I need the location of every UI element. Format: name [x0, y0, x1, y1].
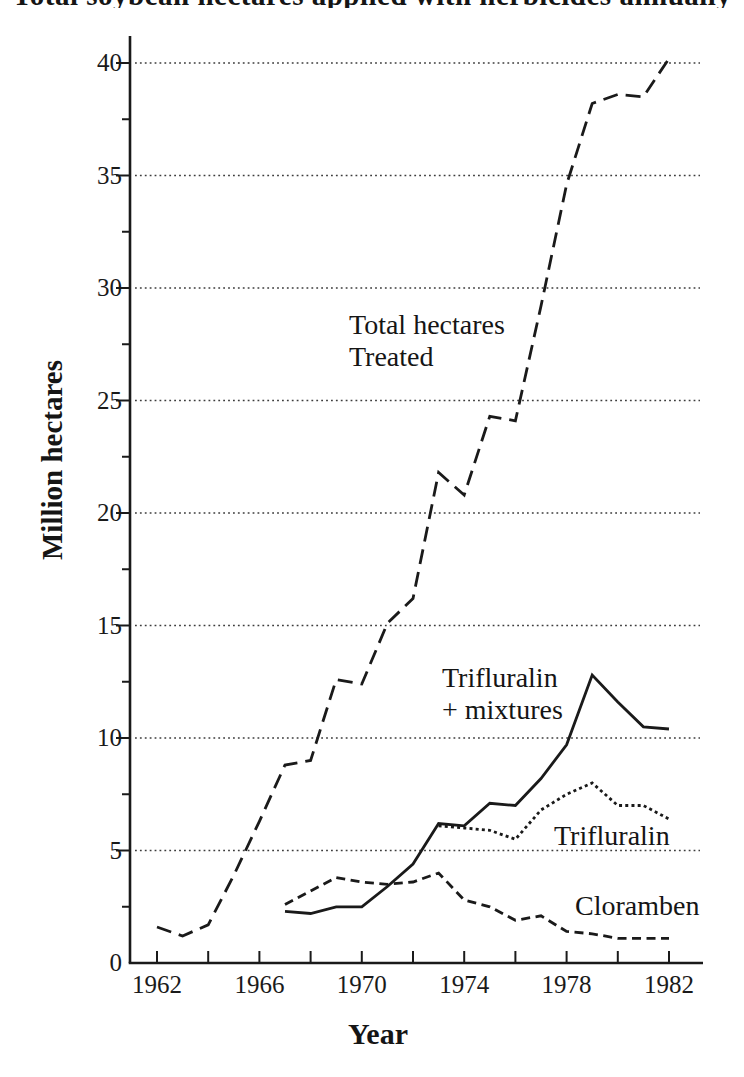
y-tick-label: 15 — [97, 612, 122, 639]
x-tick-label: 1982 — [644, 971, 694, 998]
x-tick-label: 1978 — [542, 971, 592, 998]
y-tick-label: 35 — [97, 162, 122, 189]
x-axis-title: Year — [348, 1017, 408, 1051]
figure-chart-area: Total soybean hectares applied with herb… — [0, 0, 744, 1077]
annotation-cloramben: Cloramben — [575, 890, 699, 922]
y-tick-label: 5 — [110, 837, 123, 864]
annotation-total-hectares-treated: Total hectares Treated — [349, 309, 505, 373]
x-tick-label: 1974 — [439, 971, 490, 998]
annotation-trifluralin: Trifluralin — [554, 820, 670, 852]
y-tick-label: 30 — [97, 274, 122, 301]
y-tick-label: 0 — [110, 949, 123, 976]
y-tick-label: 40 — [97, 49, 122, 76]
x-tick-label: 1962 — [132, 971, 182, 998]
x-tick-label: 1966 — [234, 971, 284, 998]
series-total-hectares-treated — [157, 59, 669, 937]
x-tick-label: 1970 — [337, 971, 387, 998]
annotation-trifluralin-plus-mixtures: Trifluralin + mixtures — [442, 662, 563, 726]
y-tick-label: 25 — [97, 387, 122, 414]
y-tick-label: 10 — [97, 724, 122, 751]
y-tick-label: 20 — [97, 499, 122, 526]
